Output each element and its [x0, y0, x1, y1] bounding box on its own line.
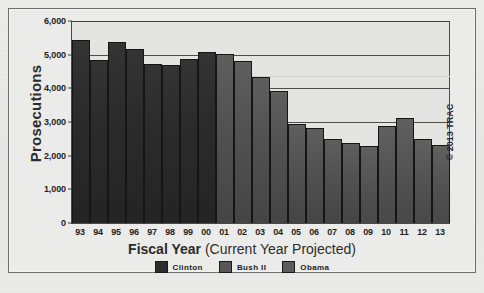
- bar-07[interactable]: [324, 139, 342, 223]
- bar-06[interactable]: [306, 128, 324, 223]
- x-tick-label-07: 07: [323, 227, 341, 241]
- x-tick-label-01: 01: [215, 227, 233, 241]
- y-axis-title: Prosecutions: [27, 54, 44, 174]
- bar-cell-08: [342, 21, 360, 223]
- chart-legend: ClintonBush IIObama: [9, 261, 475, 273]
- x-tick-label-11: 11: [395, 227, 413, 241]
- bar-cell-05: [288, 21, 306, 223]
- bar-cell-09: [360, 21, 378, 223]
- x-tick-label-03: 03: [251, 227, 269, 241]
- bar-99[interactable]: [180, 59, 198, 223]
- legend-label-bush: Bush II: [237, 263, 266, 272]
- x-tick-label-00: 00: [197, 227, 215, 241]
- y-tick-label-4000: 4,000: [44, 83, 66, 93]
- y-tick-label-6000: 6,000: [44, 16, 66, 26]
- bar-10[interactable]: [378, 126, 396, 223]
- x-tick-label-08: 08: [341, 227, 359, 241]
- bar-05[interactable]: [288, 124, 306, 223]
- bar-cell-98: [162, 21, 180, 223]
- bar-cell-96: [126, 21, 144, 223]
- y-tick-label-0: 0: [61, 218, 66, 228]
- bar-cell-12: [414, 21, 432, 223]
- y-tick-mark-4000: [68, 88, 72, 89]
- bar-93[interactable]: [72, 40, 90, 223]
- bar-97[interactable]: [144, 64, 162, 223]
- bar-00[interactable]: [198, 52, 216, 223]
- legend-swatch-clinton: [155, 261, 168, 273]
- bar-12[interactable]: [414, 139, 432, 224]
- bar-cell-95: [108, 21, 126, 223]
- y-tick-label-2000: 2,000: [44, 151, 66, 161]
- x-tick-label-09: 09: [359, 227, 377, 241]
- legend-label-clinton: Clinton: [173, 263, 203, 272]
- legend-item-obama[interactable]: Obama: [282, 261, 329, 273]
- bar-04[interactable]: [270, 91, 288, 223]
- copyright-notice: © 2013 TRAC: [446, 104, 456, 161]
- bar-cell-99: [180, 21, 198, 223]
- bar-98[interactable]: [162, 65, 180, 223]
- bar-cell-04: [270, 21, 288, 223]
- y-tick-mark-6000: [68, 21, 72, 22]
- y-tick-label-3000: 3,000: [44, 117, 66, 127]
- bar-cell-97: [144, 21, 162, 223]
- x-tick-label-95: 95: [107, 227, 125, 241]
- legend-label-obama: Obama: [300, 263, 329, 272]
- y-tick-mark-5000: [68, 54, 72, 55]
- bar-96[interactable]: [126, 49, 144, 223]
- x-tick-label-02: 02: [233, 227, 251, 241]
- bar-11[interactable]: [396, 118, 414, 223]
- bar-cell-02: [234, 21, 252, 223]
- bar-cell-00: [198, 21, 216, 223]
- y-tick-label-5000: 5,000: [44, 50, 66, 60]
- bar-09[interactable]: [360, 146, 378, 223]
- bar-cell-01: [216, 21, 234, 223]
- bar-01[interactable]: [216, 54, 234, 223]
- x-tick-label-98: 98: [161, 227, 179, 241]
- x-axis-title: Fiscal Year (Current Year Projected): [9, 241, 475, 257]
- chart-frame: TRAC REPORTS Prosecutions 01,0002,0003,0…: [8, 8, 476, 273]
- x-tick-label-13: 13: [431, 227, 449, 241]
- x-tick-label-05: 05: [287, 227, 305, 241]
- x-tick-label-10: 10: [377, 227, 395, 241]
- y-tick-label-1000: 1,000: [44, 184, 66, 194]
- x-axis-tick-labels: 9394959697989900010203040506070809101112…: [71, 227, 449, 241]
- bar-series-container: [72, 21, 450, 223]
- bar-cell-06: [306, 21, 324, 223]
- x-axis-title-bold: Fiscal Year: [128, 241, 201, 257]
- bar-95[interactable]: [108, 42, 126, 223]
- x-tick-label-93: 93: [71, 227, 89, 241]
- y-tick-mark-0: [68, 223, 72, 224]
- x-tick-label-04: 04: [269, 227, 287, 241]
- legend-swatch-bush: [219, 261, 232, 273]
- y-tick-mark-3000: [68, 122, 72, 123]
- x-tick-label-12: 12: [413, 227, 431, 241]
- plot-area: 01,0002,0003,0004,0005,0006,000: [71, 21, 450, 224]
- bar-94[interactable]: [90, 60, 108, 223]
- y-tick-mark-1000: [68, 189, 72, 190]
- x-tick-label-96: 96: [125, 227, 143, 241]
- bar-cell-93: [72, 21, 90, 223]
- bar-cell-94: [90, 21, 108, 223]
- bar-cell-10: [378, 21, 396, 223]
- legend-item-clinton[interactable]: Clinton: [155, 261, 203, 273]
- x-tick-label-99: 99: [179, 227, 197, 241]
- y-tick-mark-2000: [68, 155, 72, 156]
- x-tick-label-06: 06: [305, 227, 323, 241]
- legend-swatch-obama: [282, 261, 295, 273]
- x-tick-label-97: 97: [143, 227, 161, 241]
- bar-03[interactable]: [252, 77, 270, 223]
- bar-cell-07: [324, 21, 342, 223]
- bar-cell-03: [252, 21, 270, 223]
- bar-02[interactable]: [234, 61, 252, 223]
- bar-cell-11: [396, 21, 414, 223]
- x-tick-label-94: 94: [89, 227, 107, 241]
- bar-08[interactable]: [342, 143, 360, 223]
- legend-item-bush[interactable]: Bush II: [219, 261, 266, 273]
- x-axis-title-rest: (Current Year Projected): [201, 241, 356, 257]
